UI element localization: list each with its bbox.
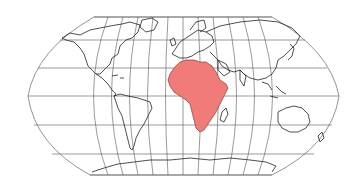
world-map: Africa <box>0 0 364 189</box>
central-america-coastline <box>96 74 116 96</box>
caribbean-islands <box>112 75 124 78</box>
india-peninsula <box>240 70 246 86</box>
australia-coastline <box>278 106 310 132</box>
asia-coastline <box>206 20 300 80</box>
antarctica-coastline <box>92 158 276 172</box>
south-america-coastline <box>114 94 152 150</box>
british-isles <box>170 38 176 46</box>
europe-coastline <box>172 30 214 58</box>
greenland-coastline <box>140 18 158 32</box>
madagascar <box>220 108 228 122</box>
southeast-asia-islands <box>262 82 286 98</box>
